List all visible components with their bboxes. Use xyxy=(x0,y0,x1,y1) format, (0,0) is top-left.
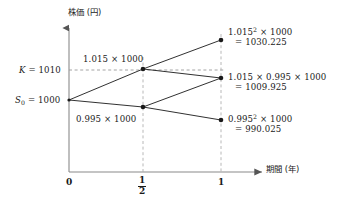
node-label-mid-end-line1: 1.015 × 0.995 × 1000 xyxy=(228,72,326,82)
branch-up-up xyxy=(143,40,221,69)
strike-value: 1010 xyxy=(39,65,61,75)
y-axis-title: 株価 (円) xyxy=(68,8,101,18)
strike-equals: = xyxy=(28,65,38,75)
spot-value: 1000 xyxy=(38,95,60,105)
node-label-down-mid: 0.995 × 1000 xyxy=(76,114,136,124)
x-tick-zero: 0 xyxy=(66,177,72,188)
strike-price-label: K = 1010 xyxy=(19,65,61,75)
branch-down-up xyxy=(143,78,221,107)
branch-root-up xyxy=(69,69,143,100)
up-up-rest: × 1000 xyxy=(257,27,292,37)
node-down-down xyxy=(219,118,224,123)
spot-equals: = xyxy=(28,95,38,105)
spot-price-label: S0 = 1000 xyxy=(15,95,60,106)
node-label-down-down-line1: 0.9952 × 1000 xyxy=(228,114,292,124)
up-up-base: 1.015 xyxy=(228,27,253,37)
node-label-mid-end-line2: = 1009.925 xyxy=(228,82,326,92)
node-label-down-down: 0.9952 × 1000 = 990.025 xyxy=(228,113,292,134)
node-root xyxy=(67,98,70,101)
node-label-mid-end: 1.015 × 0.995 × 1000 = 1009.925 xyxy=(228,72,326,92)
fraction-numerator: 1 xyxy=(138,176,146,185)
fraction-denominator: 2 xyxy=(138,187,146,196)
fraction-one-half: 1 2 xyxy=(138,176,146,196)
node-down-mid xyxy=(141,105,146,110)
node-up-up xyxy=(219,38,224,43)
node-up-mid xyxy=(141,67,146,72)
spot-subscript: 0 xyxy=(21,99,25,106)
node-label-up-mid: 1.015 × 1000 xyxy=(83,54,143,64)
x-tick-one: 1 xyxy=(218,177,224,188)
node-label-up-up-line2: = 1030.225 xyxy=(228,37,292,47)
x-tick-half: 1 2 xyxy=(138,176,146,196)
binomial-tree-figure: 株価 (円) 期間 (年) K = 1010 S0 = 1000 1.015 ×… xyxy=(0,0,337,217)
branch-down-down xyxy=(143,107,221,120)
node-label-up-up-line1: 1.0152 × 1000 xyxy=(228,27,292,37)
node-label-down-down-line2: = 990.025 xyxy=(228,124,292,134)
x-axis-title: 期間 (年) xyxy=(266,165,299,175)
node-label-up-up: 1.0152 × 1000 = 1030.225 xyxy=(228,26,292,47)
down-down-base: 0.995 xyxy=(228,114,253,124)
strike-symbol: K xyxy=(19,65,26,75)
branch-root-down xyxy=(69,100,143,107)
node-mid-end xyxy=(219,76,224,81)
down-down-rest: × 1000 xyxy=(257,114,292,124)
